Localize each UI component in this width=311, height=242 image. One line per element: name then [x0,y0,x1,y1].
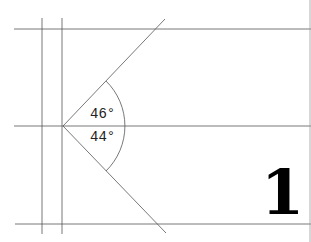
angle-label-lower: 44° [90,129,115,145]
angle-diagram: 46° 44° 1 [0,0,311,242]
angle-label-upper: 46° [90,106,115,122]
page-number: 1 [261,156,304,229]
